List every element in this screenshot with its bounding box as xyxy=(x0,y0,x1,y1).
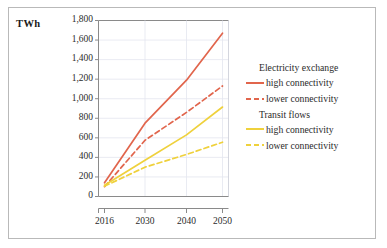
series-line xyxy=(105,107,223,185)
y-tick-label: 0 xyxy=(88,190,93,200)
chart-legend: Electricity exchangehigh connectivitylow… xyxy=(246,62,382,155)
data-series-lines xyxy=(105,33,223,187)
axis-lines xyxy=(99,21,229,209)
legend-item[interactable]: high connectivity xyxy=(246,77,382,89)
legend-solid-line-swatch xyxy=(246,124,264,134)
y-tick-label: 200 xyxy=(79,171,93,181)
legend-item-label: lower connectivity xyxy=(264,93,338,104)
x-tick-label: 2040 xyxy=(170,216,204,226)
y-tick-label: 600 xyxy=(79,132,93,142)
y-tick-label: 1,000 xyxy=(72,93,93,103)
y-tick-label: 1,600 xyxy=(72,34,93,44)
y-tick-label: 1,200 xyxy=(72,73,93,83)
legend-dashed-line-swatch xyxy=(246,94,264,104)
series-line xyxy=(105,33,223,183)
legend-group-heading: Electricity exchange xyxy=(259,62,382,73)
legend-dashed-line-swatch xyxy=(246,140,264,150)
legend-item[interactable]: high connectivity xyxy=(246,123,382,135)
x-tick-label: 2050 xyxy=(206,216,240,226)
legend-item-label: lower connectivity xyxy=(264,140,338,151)
y-tick-label: 1,400 xyxy=(72,53,93,63)
legend-item[interactable]: lower connectivity xyxy=(246,139,382,151)
legend-item[interactable]: lower connectivity xyxy=(246,93,382,105)
legend-item-label: high connectivity xyxy=(264,124,334,135)
axis-ticks xyxy=(95,21,223,214)
x-tick-label: 2016 xyxy=(88,216,122,226)
legend-item-label: high connectivity xyxy=(264,77,334,88)
legend-group-heading: Transit flows xyxy=(259,109,382,120)
y-tick-label: 400 xyxy=(79,151,93,161)
x-tick-label: 2030 xyxy=(128,216,162,226)
legend-solid-line-swatch xyxy=(246,78,264,88)
series-line xyxy=(105,86,223,187)
y-tick-label: 800 xyxy=(79,112,93,122)
y-tick-label: 1,800 xyxy=(72,14,93,24)
